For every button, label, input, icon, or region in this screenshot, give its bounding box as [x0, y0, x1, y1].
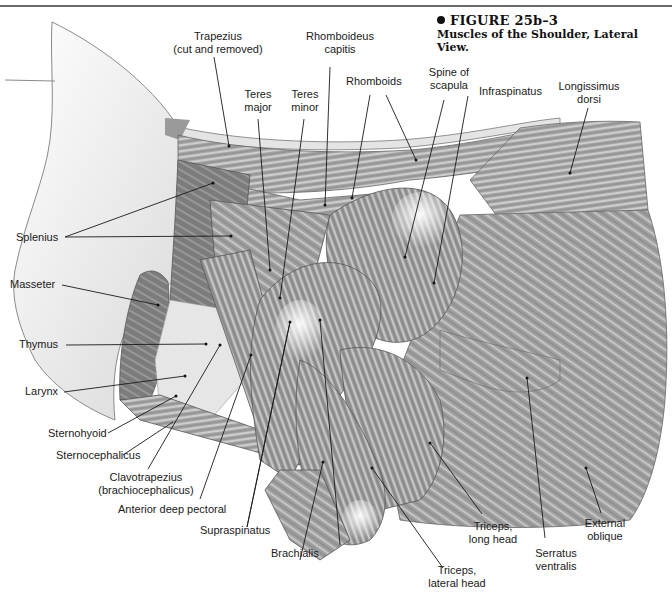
label-spine-of-scapula-line2: scapula [424, 79, 474, 92]
label-spine-of-scapula: Spine of scapula [424, 66, 474, 92]
label-teres-major-line1: Teres [240, 88, 276, 101]
label-sternohyoid: Sternohyoid [48, 427, 107, 440]
label-trapezius-line1: Trapezius [168, 30, 268, 43]
label-larynx: Larynx [25, 385, 58, 398]
label-serratus-ventralis-line1: Serratus [531, 547, 581, 560]
label-clavotrapezius: Clavotrapezius (brachiocephalicus) [96, 471, 196, 497]
label-triceps-lateral-head: Triceps, lateral head [425, 564, 489, 590]
label-clavotrapezius-line2: (brachiocephalicus) [96, 484, 196, 497]
label-supraspinatus: Supraspinatus [200, 524, 270, 537]
label-longissimus-dorsi-line1: Longissimus [553, 80, 625, 93]
label-splenius: Splenius [16, 231, 58, 244]
label-external-oblique-line1: External [580, 517, 630, 530]
label-longissimus-dorsi: Longissimus dorsi [553, 80, 625, 106]
label-masseter: Masseter [10, 278, 55, 291]
label-serratus-ventralis-line2: ventralis [531, 560, 581, 573]
label-thymus: Thymus [19, 338, 58, 351]
label-teres-minor: Teres minor [287, 88, 323, 114]
label-triceps-long-head: Triceps, long head [463, 520, 523, 546]
label-triceps-lateral-line1: Triceps, [425, 564, 489, 577]
label-rhomboideus-capitis-line2: capitis [300, 43, 380, 56]
label-triceps-long-line2: long head [463, 533, 523, 546]
label-rhomboideus-capitis: Rhomboideus capitis [300, 30, 380, 56]
label-brachialis: Brachialis [271, 547, 319, 560]
label-clavotrapezius-line1: Clavotrapezius [96, 471, 196, 484]
label-infraspinatus: Infraspinatus [479, 85, 542, 98]
label-trapezius: Trapezius (cut and removed) [168, 30, 268, 56]
label-serratus-ventralis: Serratus ventralis [531, 547, 581, 573]
label-rhomboids: Rhomboids [346, 75, 402, 88]
label-teres-minor-line1: Teres [287, 88, 323, 101]
label-sternocephalicus: Sternocephalicus [56, 449, 140, 462]
label-longissimus-dorsi-line2: dorsi [553, 93, 625, 106]
label-anterior-deep-pectoral: Anterior deep pectoral [118, 503, 226, 516]
label-external-oblique: External oblique [580, 517, 630, 543]
label-spine-of-scapula-line1: Spine of [424, 66, 474, 79]
label-teres-major: Teres major [240, 88, 276, 114]
label-trapezius-line2: (cut and removed) [168, 43, 268, 56]
label-external-oblique-line2: oblique [580, 530, 630, 543]
label-teres-major-line2: major [240, 101, 276, 114]
label-triceps-lateral-line2: lateral head [425, 577, 489, 590]
label-rhomboideus-capitis-line1: Rhomboideus [300, 30, 380, 43]
label-teres-minor-line2: minor [287, 101, 323, 114]
label-triceps-long-line1: Triceps, [463, 520, 523, 533]
